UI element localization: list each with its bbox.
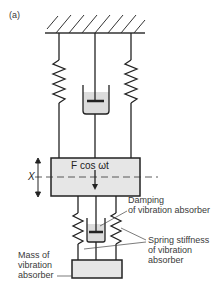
main-damper	[83, 33, 109, 158]
mass-annotation: Mass of vibration absorber	[18, 250, 54, 280]
absorber-mass	[72, 260, 122, 278]
main-spring-right	[125, 33, 137, 158]
displacement-label: X	[28, 172, 35, 182]
absorber-spring-left	[73, 196, 83, 260]
main-spring-left	[53, 33, 65, 158]
panel-label: (a)	[9, 10, 20, 20]
absorber-spring-right	[111, 196, 121, 260]
damping-annotation: Damping of vibration absorber	[128, 195, 210, 215]
force-label: F cos ωt	[71, 161, 109, 171]
fixed-support	[45, 15, 145, 33]
spring-annotation: Spring stiffness of vibration absorber	[148, 235, 209, 265]
absorber-damper	[87, 196, 105, 260]
displacement-arrow	[36, 158, 41, 197]
